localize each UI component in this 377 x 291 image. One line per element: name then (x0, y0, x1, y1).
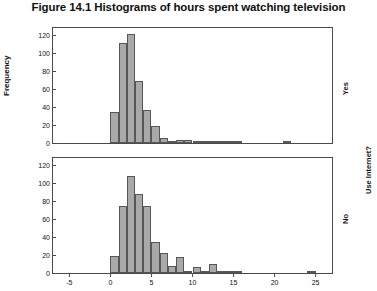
y-axis-tick-label: 20 (42, 122, 53, 129)
x-axis-tick: 10 (189, 274, 197, 286)
histogram-bar (160, 138, 168, 143)
histogram-bar (201, 271, 209, 273)
x-axis: -50510152025 (52, 274, 333, 291)
histogram-panel-no: 020406080100120 (52, 157, 333, 274)
y-axis-tick-mark (53, 35, 56, 36)
histogram-bar (217, 141, 225, 143)
x-axis-tick-mark (315, 274, 316, 277)
y-axis-tick: 80 (42, 192, 53, 210)
y-axis-tick-label: 40 (42, 104, 53, 111)
x-axis-tick-mark (192, 274, 193, 277)
histogram-panel-yes: 020406080100120 (52, 27, 333, 144)
y-axis-tick-mark (53, 237, 56, 238)
histogram-bar (135, 81, 143, 143)
y-axis-tick: 60 (42, 210, 53, 228)
x-axis-tick-mark (151, 274, 152, 277)
y-axis-tick-mark (53, 219, 56, 220)
y-axis-tick-mark (53, 165, 56, 166)
y-axis-tick: 40 (42, 98, 53, 116)
x-axis-tick: 20 (271, 274, 279, 286)
histogram-bar (176, 140, 184, 143)
x-axis-tick-mark (110, 274, 111, 277)
histogram-bar (225, 141, 233, 143)
x-axis-tick: 5 (150, 274, 154, 286)
y-axis-tick: 20 (42, 246, 53, 264)
histogram-bar (110, 112, 118, 143)
y-axis-tick-mark (53, 125, 56, 126)
histogram-bar (160, 253, 168, 273)
histogram-bar (193, 141, 201, 143)
panel-group-label: Use Internet? (364, 146, 373, 194)
plot-area-no: 020406080100120 (53, 158, 332, 273)
histogram-bar (225, 271, 233, 273)
histogram-bar (193, 267, 201, 273)
histogram-bar (151, 242, 159, 273)
y-axis-tick: 80 (42, 62, 53, 80)
y-axis-tick: 120 (38, 26, 53, 44)
y-axis-tick: 40 (42, 228, 53, 246)
histogram-bar (127, 176, 135, 273)
histogram-bar (176, 257, 184, 273)
histogram-bar (209, 264, 217, 273)
x-axis-tick-label: -5 (66, 279, 72, 286)
y-axis-label: Frequency (2, 82, 11, 96)
y-axis-tick-mark (53, 183, 56, 184)
y-axis-tick: 0 (46, 134, 53, 152)
y-axis-tick-label: 120 (38, 162, 53, 169)
x-axis-tick-label: 0 (108, 279, 112, 286)
x-axis-tick: 0 (108, 274, 112, 286)
histogram-bar (143, 206, 151, 273)
histogram-bar (119, 43, 127, 143)
histogram-bar (234, 271, 242, 273)
figure-title: Figure 14.1 Histograms of hours spent wa… (0, 1, 377, 13)
x-axis-tick-label: 5 (150, 279, 154, 286)
histogram-bar (168, 266, 176, 273)
y-axis-tick-mark (53, 89, 56, 90)
y-axis-tick-label: 100 (38, 180, 53, 187)
panel-label-yes: Yes (341, 82, 350, 95)
x-axis-tick-mark (69, 274, 70, 277)
histogram-bar (127, 34, 135, 143)
y-axis-tick-label: 100 (38, 50, 53, 57)
histogram-bar (234, 141, 242, 143)
y-axis-tick-label: 80 (42, 68, 53, 75)
y-axis-tick-label: 60 (42, 216, 53, 223)
histogram-bar (151, 126, 159, 143)
y-axis-tick-mark (53, 53, 56, 54)
x-axis-tick-mark (233, 274, 234, 277)
x-axis-tick-label: 15 (230, 279, 238, 286)
histogram-bar (143, 110, 151, 143)
histogram-bar (209, 141, 217, 143)
histogram-bar (110, 256, 118, 273)
x-axis-tick-label: 10 (189, 279, 197, 286)
histogram-bar (184, 271, 192, 273)
x-axis-tick-label: 20 (271, 279, 279, 286)
y-axis-tick: 60 (42, 80, 53, 98)
x-axis-tick: -5 (66, 274, 72, 286)
y-axis-tick: 100 (38, 174, 53, 192)
y-axis-tick-label: 120 (38, 32, 53, 39)
y-axis-tick-label: 80 (42, 198, 53, 205)
figure-container: Figure 14.1 Histograms of hours spent wa… (0, 0, 377, 291)
histogram-bar (168, 141, 176, 143)
histogram-bar (201, 141, 209, 143)
y-axis-tick-label: 0 (46, 140, 53, 147)
y-axis-tick: 120 (38, 156, 53, 174)
y-axis-tick-mark (53, 143, 56, 144)
histogram-bar (119, 206, 127, 273)
panel-label-no: No (341, 214, 350, 224)
y-axis-tick-mark (53, 201, 56, 202)
y-axis-tick-mark (53, 71, 56, 72)
y-axis-tick-label: 60 (42, 86, 53, 93)
y-axis-tick-label: 40 (42, 234, 53, 241)
x-axis-tick-mark (274, 274, 275, 277)
y-axis-tick-mark (53, 107, 56, 108)
x-axis-tick: 15 (230, 274, 238, 286)
x-axis-tick-label: 25 (312, 279, 320, 286)
y-axis-tick-label: 20 (42, 252, 53, 259)
histogram-bar (217, 271, 225, 273)
histogram-bar (307, 271, 315, 273)
histogram-bar (283, 141, 291, 143)
histogram-bar (135, 194, 143, 273)
plot-area-yes: 020406080100120 (53, 28, 332, 143)
